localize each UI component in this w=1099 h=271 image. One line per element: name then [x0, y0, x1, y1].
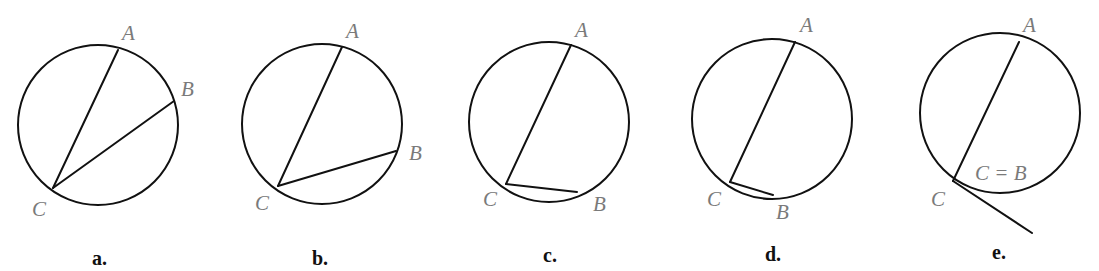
chord-ca	[278, 47, 342, 186]
figure-e: A C C = B e.	[920, 13, 1080, 263]
label-point-c: C	[32, 197, 47, 221]
label-point-b: B	[409, 141, 422, 165]
chord-cb	[506, 184, 577, 192]
label-point-a: A	[1021, 13, 1036, 37]
label-point-a: A	[120, 21, 135, 45]
circle-d	[692, 39, 852, 199]
figure-b: A B C b.	[242, 19, 422, 269]
label-point-a: A	[798, 13, 813, 37]
chord-ca	[53, 50, 118, 188]
label-point-c: C	[483, 187, 498, 211]
chord-cb	[730, 182, 773, 195]
label-point-c: C	[707, 187, 722, 211]
caption-a: a.	[92, 247, 107, 269]
figure-a: A B C a.	[18, 21, 194, 269]
circle-b	[242, 44, 402, 204]
label-point-b: B	[776, 200, 789, 224]
caption-b: b.	[312, 247, 328, 269]
label-point-a: A	[344, 19, 359, 43]
inscribed-angle-limit-diagram: A B C a. A B C b. A B C c. A B C d.	[0, 0, 1099, 271]
label-point-a: A	[573, 18, 588, 42]
tangent-line	[953, 181, 1032, 233]
chord-ca	[506, 45, 571, 184]
caption-d: d.	[765, 243, 781, 265]
chord-ca	[730, 42, 795, 182]
label-point-b: B	[593, 192, 606, 216]
caption-e: e.	[992, 241, 1006, 263]
figure-c: A B C c.	[469, 18, 629, 266]
figure-d: A B C d.	[692, 13, 852, 265]
label-point-c: C	[255, 191, 270, 215]
label-c-equals-b: C = B	[975, 161, 1027, 185]
circle-c	[469, 42, 629, 202]
label-point-c: C	[931, 187, 946, 211]
caption-c: c.	[543, 244, 557, 266]
circle-a	[18, 45, 178, 205]
label-point-b: B	[181, 77, 194, 101]
chord-cb	[53, 101, 174, 188]
